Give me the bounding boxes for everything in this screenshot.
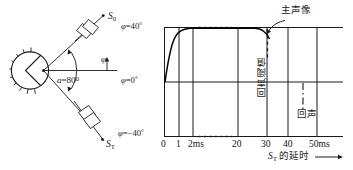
xtick-label-0: 0: [161, 140, 166, 150]
angle-alpha-label: a=80o: [57, 76, 79, 85]
xtick-label-1: 1: [176, 140, 181, 150]
phi-level-label-plus-40: φ=40°: [121, 22, 142, 31]
xtick-label-50ms: 50ms: [309, 140, 330, 150]
angle-arc-arrowhead-bottom: [68, 86, 72, 91]
phi-level-label-zero: φ=0°: [121, 76, 138, 85]
xtick-label-30: 30: [261, 140, 271, 150]
xtick-label-40: 40: [283, 140, 293, 150]
transducer-st-label: ST: [106, 140, 115, 150]
response-curve: [165, 28, 270, 82]
echo-label: 回声: [297, 110, 317, 120]
ray-to-s0: [44, 30, 89, 71]
main-sound-image-label: 主声像: [281, 6, 311, 16]
phi-level-label-minus-40: φ=−40°: [118, 129, 144, 138]
main-image-leader-arrow: [269, 21, 286, 32]
echo-threshold-label: 回声阈值: [258, 57, 268, 97]
xaxis-caption-arrowhead-icon: [338, 155, 343, 159]
transducer-st-icon: [74, 101, 104, 141]
angle-arc-arrowhead-top: [68, 49, 72, 54]
xtick-label-2ms: 2ms: [188, 140, 204, 150]
phi-axis-label: φ: [101, 55, 106, 64]
figure-root: S0 ST a=80o φ φ=40° φ=0° φ=−40° 主声像 回声 回…: [0, 0, 353, 170]
xaxis-caption: ST 的延时: [268, 152, 309, 162]
transducer-s0-label: S0: [108, 12, 116, 22]
xtick-label-20: 20: [232, 140, 242, 150]
transducer-s0-icon: [75, 14, 105, 41]
